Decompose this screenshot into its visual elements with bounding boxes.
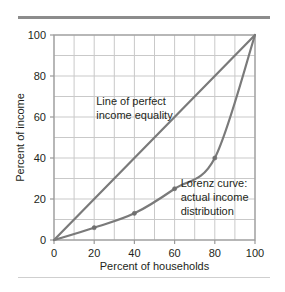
x-axis-title: Percent of households — [100, 260, 210, 272]
figure-container: 020406080100020406080100 Line of perfect… — [0, 0, 285, 292]
lorenz-curve-chart: 020406080100020406080100 Line of perfect… — [0, 0, 285, 292]
x-tick-label: 80 — [209, 247, 221, 259]
data-point-marker — [173, 187, 177, 191]
y-tick-label: 100 — [28, 29, 46, 41]
x-tick-label: 60 — [168, 247, 180, 259]
lorenz-curve-label-line: Lorenz curve: — [181, 177, 248, 189]
y-axis-title: Percent of income — [14, 93, 26, 182]
y-tick-label: 20 — [34, 193, 46, 205]
x-tick-label: 0 — [51, 247, 57, 259]
lorenz-curve-label-line: distribution — [181, 205, 234, 217]
annotations-group: Line of perfectincome equalityLorenz cur… — [96, 95, 248, 217]
x-tick-label: 100 — [246, 247, 264, 259]
data-point-marker — [132, 211, 136, 215]
equality-line-label-line: Line of perfect — [96, 95, 166, 107]
tick-labels-group: 020406080100020406080100 — [28, 29, 265, 259]
data-point-marker — [213, 156, 217, 160]
lorenz-curve-label-line: actual income — [181, 191, 249, 203]
x-tick-label: 40 — [128, 247, 140, 259]
x-tick-label: 20 — [88, 247, 100, 259]
y-tick-label: 0 — [40, 234, 46, 246]
y-tick-label: 60 — [34, 111, 46, 123]
data-point-marker — [92, 226, 96, 230]
y-tick-label: 80 — [34, 70, 46, 82]
equality-line-label-line: income equality — [96, 109, 173, 121]
y-tick-label: 40 — [34, 152, 46, 164]
lorenz-curve-label: Lorenz curve:actual incomedistribution — [181, 177, 249, 217]
